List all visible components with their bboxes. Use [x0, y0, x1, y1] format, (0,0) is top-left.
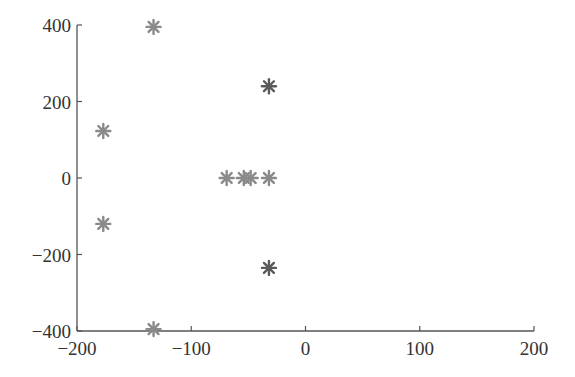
- x-tick-label: 200: [520, 338, 549, 359]
- asterisk-marker: [96, 217, 110, 231]
- y-tick-label: 200: [43, 92, 72, 113]
- x-tick-label: 0: [301, 338, 311, 359]
- data-points: [96, 20, 276, 336]
- asterisk-marker: [147, 322, 161, 336]
- y-tick-label: −400: [32, 321, 71, 342]
- asterisk-marker: [262, 79, 276, 93]
- asterisk-marker: [262, 261, 276, 275]
- y-tick-label: 400: [43, 15, 72, 36]
- asterisk-marker: [220, 171, 234, 185]
- scatter-chart: −200−1000100200 −400−2000200400: [0, 0, 575, 377]
- x-tick-label: 100: [406, 338, 435, 359]
- asterisk-marker: [96, 124, 110, 138]
- y-tick-label: 0: [62, 168, 72, 189]
- asterisk-marker: [147, 20, 161, 34]
- y-tick-label: −200: [32, 245, 71, 266]
- asterisk-marker: [244, 171, 258, 185]
- y-axis-ticks: −400−2000200400: [32, 15, 82, 342]
- x-tick-label: −100: [172, 338, 211, 359]
- asterisk-marker: [262, 171, 276, 185]
- axes: [77, 25, 534, 331]
